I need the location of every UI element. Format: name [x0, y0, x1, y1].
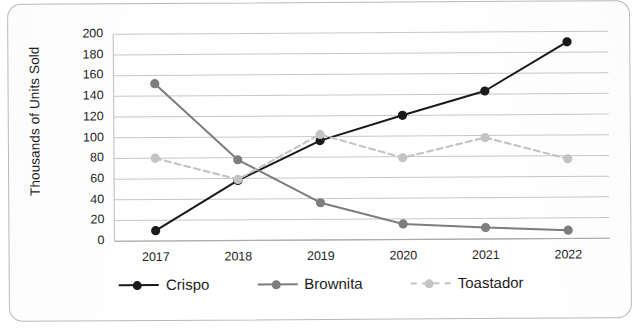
datapoint-crispo-2022 [562, 37, 571, 46]
datapoint-brownita-2018 [233, 155, 242, 164]
datapoint-brownita-2020 [399, 219, 408, 228]
legend-label-brownita: Brownita [304, 275, 362, 292]
legend-marker-crispo-icon [119, 277, 159, 291]
gridline-140 [114, 93, 609, 96]
datapoint-toastador-2019 [315, 130, 324, 139]
legend-marker-toastador-icon [411, 276, 451, 290]
datapoint-brownita-2017 [150, 79, 159, 88]
legend-label-toastador: Toastador [458, 274, 524, 291]
legend-dot-icon [425, 279, 434, 288]
datapoint-toastador-2021 [480, 133, 489, 142]
legend-item-brownita[interactable]: Brownita [257, 275, 362, 293]
legend-item-crispo[interactable]: Crispo [119, 276, 209, 294]
chart-card: Thousands of Units Sold 2001801601401201… [7, 0, 632, 322]
gridline-200 [113, 31, 608, 34]
gridline-40 [114, 197, 609, 200]
datapoint-brownita-2022 [564, 226, 573, 235]
datapoint-crispo-2021 [480, 86, 489, 95]
x-axis-line [114, 238, 609, 241]
gridline-160 [113, 73, 608, 76]
legend-marker-brownita-icon [257, 277, 297, 291]
datapoint-toastador-2020 [398, 153, 407, 162]
gridline-100 [114, 135, 609, 138]
legend-label-crispo: Crispo [166, 276, 209, 293]
datapoint-toastador-2017 [151, 154, 160, 163]
gridline-80 [114, 155, 609, 158]
legend-dot-icon [271, 280, 280, 289]
gridline-20 [114, 218, 609, 221]
legend-item-toastador[interactable]: Toastador [411, 274, 524, 292]
gridline-60 [114, 176, 609, 179]
y-axis-line [113, 34, 114, 241]
datapoint-brownita-2021 [481, 223, 490, 232]
gridline-180 [113, 52, 608, 55]
datapoint-toastador-2018 [233, 175, 242, 184]
legend-dot-icon [133, 281, 142, 290]
chart-plot-area: Thousands of Units Sold 2001801601401201… [8, 1, 631, 321]
datapoint-brownita-2019 [316, 198, 325, 207]
datapoint-crispo-2020 [398, 111, 407, 120]
datapoint-crispo-2017 [151, 226, 160, 235]
datapoint-toastador-2022 [563, 154, 572, 163]
